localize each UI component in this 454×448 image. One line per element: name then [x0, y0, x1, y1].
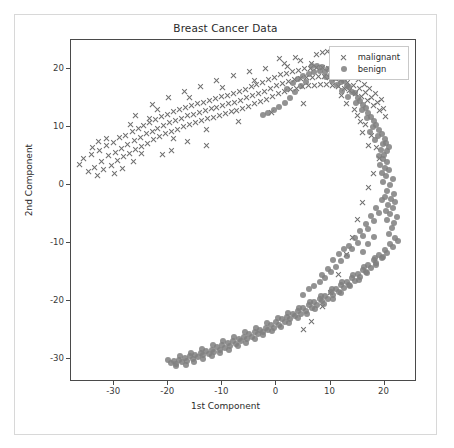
data-point-malignant: [166, 119, 173, 126]
data-point-benign: [284, 314, 290, 320]
data-point-malignant: [100, 166, 107, 173]
legend-item-benign: benign: [336, 63, 400, 75]
data-point-malignant: [323, 81, 330, 88]
data-point-malignant: [110, 139, 117, 146]
x-axis-title: 1st Component: [15, 401, 436, 411]
data-point-malignant: [224, 92, 231, 99]
data-point-malignant: [263, 96, 270, 103]
data-point-benign: [370, 124, 376, 130]
data-point-malignant: [213, 77, 220, 84]
data-point-benign: [346, 84, 352, 90]
data-point-malignant: [129, 128, 136, 135]
data-point-malignant: [380, 105, 387, 112]
data-point-benign: [252, 329, 258, 335]
data-point-malignant: [235, 118, 242, 125]
data-point-malignant: [350, 82, 357, 89]
data-point-malignant: [319, 303, 326, 310]
data-point-benign: [346, 243, 352, 249]
data-point-malignant: [119, 165, 126, 172]
data-point-benign: [317, 279, 323, 285]
data-point-benign: [230, 338, 236, 344]
data-point-benign: [383, 173, 389, 179]
y-tick-label: -30: [26, 353, 64, 363]
data-point-benign: [379, 170, 385, 176]
data-point-malignant: [307, 65, 314, 72]
data-point-benign: [385, 202, 391, 208]
data-point-benign: [379, 131, 385, 137]
data-point-benign: [355, 240, 361, 246]
data-point-benign: [360, 267, 366, 273]
data-point-benign: [300, 73, 306, 79]
data-point-benign: [257, 327, 263, 333]
data-point-malignant: [271, 74, 278, 81]
data-point-benign: [209, 353, 215, 359]
data-point-benign: [226, 347, 232, 353]
data-point-malignant: [329, 82, 336, 89]
data-point-benign: [368, 213, 374, 219]
data-point-malignant: [300, 100, 307, 107]
data-point-malignant: [88, 151, 95, 158]
legend-label-malignant: malignant: [354, 52, 400, 62]
data-point-benign: [349, 89, 355, 95]
data-point-benign: [392, 199, 398, 205]
data-point-malignant: [251, 77, 258, 84]
data-point-malignant: [343, 251, 350, 258]
data-point-benign: [309, 305, 315, 311]
data-point-malignant: [285, 78, 292, 85]
figure-panel: Breast Cancer Data 2nd Component 1st Com…: [14, 14, 437, 435]
legend-item-malignant: malignant: [336, 51, 400, 63]
data-point-benign: [376, 252, 382, 258]
data-point-benign: [214, 344, 220, 350]
data-point-malignant: [170, 135, 177, 142]
data-point-benign: [361, 264, 367, 270]
data-point-malignant: [368, 94, 375, 101]
data-point-benign: [384, 148, 390, 154]
data-point-malignant: [181, 88, 188, 95]
data-point-benign: [271, 325, 277, 331]
data-point-malignant: [103, 135, 110, 142]
data-point-malignant: [105, 152, 112, 159]
data-point-benign: [287, 95, 293, 101]
data-point-benign: [363, 221, 369, 227]
data-point-malignant: [138, 150, 145, 157]
data-point-benign: [379, 255, 385, 261]
data-point-benign: [312, 306, 318, 312]
data-point-malignant: [349, 234, 356, 241]
data-point-malignant: [218, 93, 225, 100]
data-point-benign: [200, 352, 206, 358]
data-point-malignant: [346, 87, 353, 94]
data-point-benign: [384, 217, 390, 223]
data-point-benign: [177, 353, 183, 359]
data-point-benign: [355, 271, 361, 277]
data-point-malignant: [225, 100, 232, 107]
legend-label-benign: benign: [354, 64, 387, 74]
data-point-malignant: [261, 88, 268, 95]
data-point-malignant: [366, 85, 373, 92]
data-point-benign: [199, 346, 205, 352]
data-point-malignant: [154, 106, 161, 113]
data-point-benign: [227, 343, 233, 349]
data-point-malignant: [168, 147, 175, 154]
data-point-malignant: [149, 101, 156, 108]
x-tick-label: 0: [255, 386, 295, 396]
data-point-benign: [311, 283, 317, 289]
data-point-malignant: [170, 108, 177, 115]
data-point-malignant: [243, 94, 250, 101]
data-point-benign: [376, 127, 382, 133]
data-point-benign: [217, 350, 223, 356]
data-point-benign: [287, 316, 293, 322]
x-tick: [384, 381, 385, 385]
x-marker-icon: [336, 51, 354, 63]
data-point-malignant: [354, 112, 361, 119]
data-point-benign: [364, 270, 370, 276]
data-point-malignant: [116, 134, 123, 141]
data-point-benign: [292, 313, 298, 319]
data-point-benign: [382, 136, 388, 142]
data-point-malignant: [303, 74, 310, 81]
data-point-malignant: [212, 95, 219, 102]
data-point-benign: [271, 107, 277, 113]
data-point-malignant: [356, 85, 363, 92]
data-point-benign: [203, 348, 209, 354]
data-point-malignant: [206, 97, 213, 104]
data-point-benign: [349, 246, 355, 252]
